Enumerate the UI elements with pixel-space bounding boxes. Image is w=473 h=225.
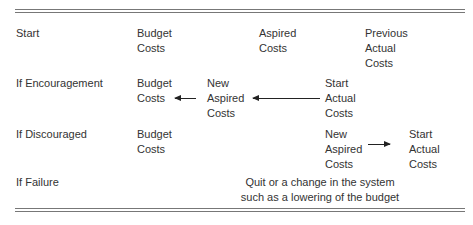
cell-line: Actual <box>325 91 356 106</box>
cell-line: Costs <box>137 142 172 157</box>
cell-line: Budget <box>137 26 172 41</box>
note-line: such as a lowering of the budget <box>222 190 418 205</box>
encouragement-budget-costs: Budget Costs <box>137 76 172 106</box>
discouraged-new-aspired-costs: New Aspired Costs <box>325 127 362 172</box>
cell-line: Costs <box>365 56 408 71</box>
cell-line: New <box>207 76 244 91</box>
cell-line: Costs <box>137 41 172 56</box>
left-arrow-icon <box>253 98 320 99</box>
start-budget-costs: Budget Costs <box>137 26 172 56</box>
cell-line: New <box>325 127 362 142</box>
failure-note: Quit or a change in the system such as a… <box>222 175 418 205</box>
row-label-if-encouragement: If Encouragement <box>16 76 103 91</box>
right-arrow-icon <box>368 144 390 145</box>
cell-line: Actual <box>365 41 408 56</box>
encouragement-new-aspired-costs: New Aspired Costs <box>207 76 244 121</box>
cell-line: Aspired <box>259 26 296 41</box>
bottom-double-rule <box>15 208 465 212</box>
cell-line: Costs <box>137 91 172 106</box>
cell-line: Start <box>325 76 356 91</box>
cell-line: Costs <box>325 106 356 121</box>
discouraged-budget-costs: Budget Costs <box>137 127 172 157</box>
start-previous-actual-costs: Previous Actual Costs <box>365 26 408 71</box>
cell-line: Start <box>409 127 440 142</box>
cell-line: Budget <box>137 76 172 91</box>
cell-line: Aspired <box>207 91 244 106</box>
row-label-if-failure: If Failure <box>16 175 59 190</box>
row-label-start: Start <box>16 26 39 41</box>
cell-line: Budget <box>137 127 172 142</box>
start-aspired-costs: Aspired Costs <box>259 26 296 56</box>
top-double-rule <box>15 9 465 13</box>
note-line: Quit or a change in the system <box>222 175 418 190</box>
cell-line: Aspired <box>325 142 362 157</box>
cell-line: Costs <box>259 41 296 56</box>
cell-line: Previous <box>365 26 408 41</box>
discouraged-start-actual-costs: Start Actual Costs <box>409 127 440 172</box>
row-label-if-discouraged: If Discouraged <box>16 127 87 142</box>
cell-line: Costs <box>325 157 362 172</box>
encouragement-start-actual-costs: Start Actual Costs <box>325 76 356 121</box>
cell-line: Actual <box>409 142 440 157</box>
left-arrow-icon <box>175 98 196 99</box>
cell-line: Costs <box>207 106 244 121</box>
cell-line: Costs <box>409 157 440 172</box>
